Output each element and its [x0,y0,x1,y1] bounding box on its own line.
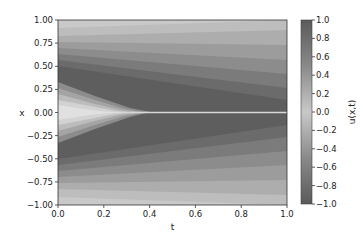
y-tick-label: −1.00 [27,200,53,210]
y-axis-label: x [19,108,25,118]
x-tick-label: 0.4 [143,209,157,219]
colorbar-tick-label: −0.8 [316,181,337,191]
x-tick-label: 0.6 [189,209,203,219]
y-tick-label: 0.50 [34,61,53,71]
y-tick-label: −0.75 [27,177,53,187]
y-tick-label: −0.50 [27,154,53,164]
y-tick-label: 0.75 [34,38,53,48]
colorbar-tick-label: 0.4 [316,70,330,80]
y-tick-label: 0.00 [34,108,53,118]
colorbar-tick-label: 0.8 [316,33,330,43]
contour-chart: 1.00 0.75 0.50 0.25 0.00 −0.25 −0.50 −0.… [0,0,363,240]
colorbar-tick-label: −0.4 [316,144,337,154]
colorbar-tick-label: −0.2 [316,125,337,135]
colorbar-tick-label: 0.2 [316,89,330,99]
x-tick-label: 1.0 [280,209,294,219]
colorbar-tick-label: −0.6 [316,162,337,172]
y-tick-label: −0.25 [27,131,53,141]
x-axis-label: t [171,222,175,232]
colorbar-tick-label: 0.0 [316,107,330,117]
y-tick-label: 1.00 [34,15,53,25]
x-tick-label: 0.0 [51,209,65,219]
y-axis: 1.00 0.75 0.50 0.25 0.00 −0.25 −0.50 −0.… [19,15,58,210]
x-tick-label: 0.2 [97,209,111,219]
colorbar-tick-label: 1.0 [316,15,330,25]
x-tick-label: 0.8 [234,209,248,219]
plot-area [58,20,287,205]
colorbar: 1.0 0.8 0.6 0.4 0.2 0.0 −0.2 −0.4 −0.6 −… [301,15,357,209]
colorbar-tick-label: −1.0 [316,199,337,209]
y-tick-label: 0.25 [34,84,53,94]
colorbar-label: u(x,t) [347,100,357,124]
colorbar-tick-label: 0.6 [316,52,330,62]
x-axis: 0.0 0.2 0.4 0.6 0.8 1.0 t [51,205,294,232]
